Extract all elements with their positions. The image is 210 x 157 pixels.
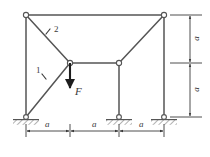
support-right-pin bbox=[162, 115, 167, 120]
label-member-2: 2 bbox=[54, 25, 59, 34]
support-middle bbox=[106, 115, 132, 125]
label-dim-bottom-right: a bbox=[139, 120, 144, 129]
support-left-pin bbox=[24, 115, 29, 120]
member-2-diagonal bbox=[26, 15, 70, 63]
support-right bbox=[151, 115, 177, 125]
member-right-diagonal bbox=[119, 15, 164, 63]
joint-top-right bbox=[161, 12, 166, 17]
label-dim-bottom-mid: a bbox=[92, 120, 97, 129]
support-middle-pin bbox=[117, 115, 122, 120]
label-force-F: F bbox=[75, 86, 82, 97]
member-1-diagonal bbox=[26, 63, 70, 117]
label-dim-right-lower: a bbox=[192, 87, 201, 92]
label-dim-right-upper: a bbox=[192, 36, 201, 41]
truss-frame-diagram bbox=[0, 0, 210, 157]
label-dim-bottom-left: a bbox=[45, 120, 50, 129]
section-tick-member-1 bbox=[42, 74, 46, 79]
frame-members bbox=[26, 15, 164, 117]
joint-top-left bbox=[23, 12, 28, 17]
joint-mid-right bbox=[116, 60, 121, 65]
section-tick-member-2 bbox=[46, 29, 50, 34]
label-member-1: 1 bbox=[36, 66, 41, 75]
support-left bbox=[13, 115, 39, 125]
figure-canvas: 2 1 F a a a a a bbox=[0, 0, 210, 157]
dimension-right bbox=[170, 15, 202, 117]
pin-joints bbox=[23, 12, 166, 65]
